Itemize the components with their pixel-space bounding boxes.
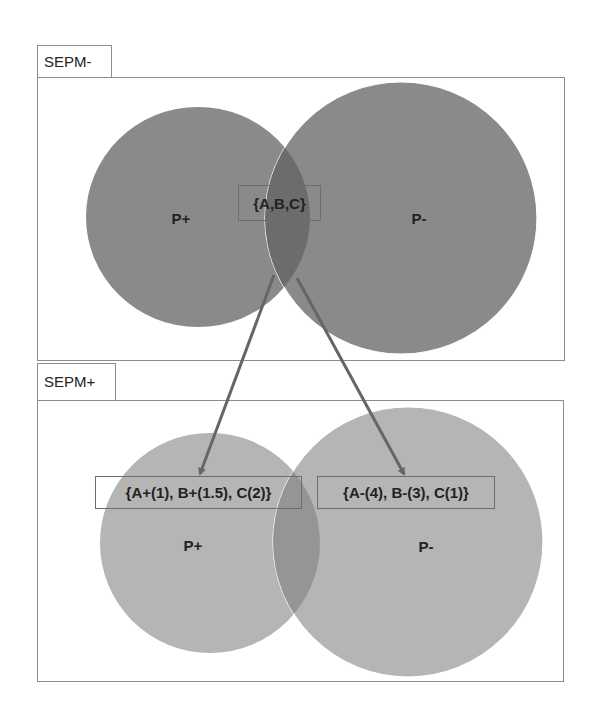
bottom-p-minus-label: P- <box>419 538 434 555</box>
top-p-minus-label: P- <box>412 210 427 227</box>
p-plus-set-label: {A+(1), B+(1.5), C(2)} <box>95 476 302 509</box>
diagram-canvas: SEPM- SEPM+ P+ P- {A,B,C} {A+(1), B+(1.5… <box>0 0 598 713</box>
venn-shapes <box>0 0 598 713</box>
intersection-set-label: {A,B,C} <box>238 185 321 221</box>
p-minus-set-label: {A-(4), B-(3), C(1)} <box>317 476 495 509</box>
bottom-p-plus-label: P+ <box>184 537 203 554</box>
top-p-plus-label: P+ <box>172 210 191 227</box>
